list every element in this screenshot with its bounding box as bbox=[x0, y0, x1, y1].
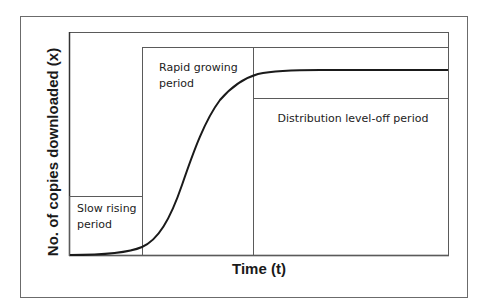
level-off-label: Distribution level-off period bbox=[278, 112, 429, 125]
rapid-growing-label-line2: period bbox=[159, 77, 194, 90]
slow-rising-label-line2: period bbox=[77, 218, 112, 231]
x-axis-label: Time (t) bbox=[232, 260, 286, 277]
s-curve bbox=[70, 70, 448, 255]
rapid-growing-label-line1: Rapid growing bbox=[159, 61, 238, 74]
diagram-canvas: Slow rising period Rapid growing period … bbox=[0, 0, 486, 307]
y-axis-label: No. of copies downloaded (x) bbox=[44, 48, 61, 256]
plot-area bbox=[70, 33, 449, 256]
plateau-band bbox=[254, 48, 449, 99]
slow-rising-label-line1: Slow rising bbox=[77, 202, 137, 215]
